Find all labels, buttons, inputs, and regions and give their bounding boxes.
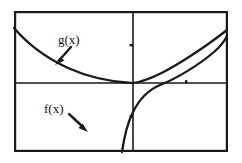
coordinate-plane-svg: g(x) f(x) [0, 0, 242, 163]
x-axis-tick-right [185, 80, 187, 83]
g-label-text: g(x) [58, 32, 80, 47]
graph-figure: g(x) f(x) [0, 0, 242, 163]
y-axis-tick-upper [130, 44, 133, 46]
f-label-text: f(x) [44, 101, 64, 116]
